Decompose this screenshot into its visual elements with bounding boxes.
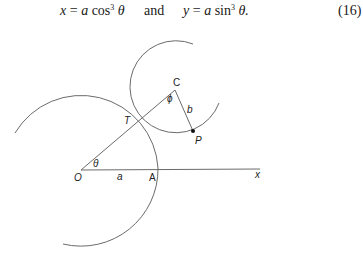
label-x-axis: x — [254, 169, 261, 180]
point-P-marker — [191, 129, 195, 133]
label-phi: ϕ — [167, 93, 173, 104]
label-A: A — [149, 172, 156, 183]
label-T: T — [124, 115, 131, 126]
label-theta: θ — [93, 158, 99, 169]
x-axis-line — [81, 169, 260, 170]
label-P: P — [195, 135, 202, 146]
hypocycloid-diagram: C ϕ b P T O θ a A x — [0, 0, 363, 254]
label-C: C — [173, 77, 180, 88]
label-a: a — [117, 171, 123, 182]
label-b: b — [187, 104, 193, 115]
fixed-circle-arc — [15, 95, 158, 246]
label-O: O — [74, 172, 82, 183]
